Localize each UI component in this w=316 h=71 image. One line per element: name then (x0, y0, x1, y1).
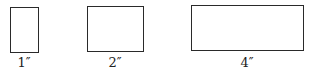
rectangle-4-inch (191, 5, 304, 51)
rectangle-1-inch (10, 7, 39, 53)
label-4-inch: 4″ (227, 56, 267, 70)
rectangle-2-inch (87, 6, 144, 52)
label-1-inch: 1″ (4, 56, 44, 70)
label-2-inch: 2″ (95, 56, 135, 70)
